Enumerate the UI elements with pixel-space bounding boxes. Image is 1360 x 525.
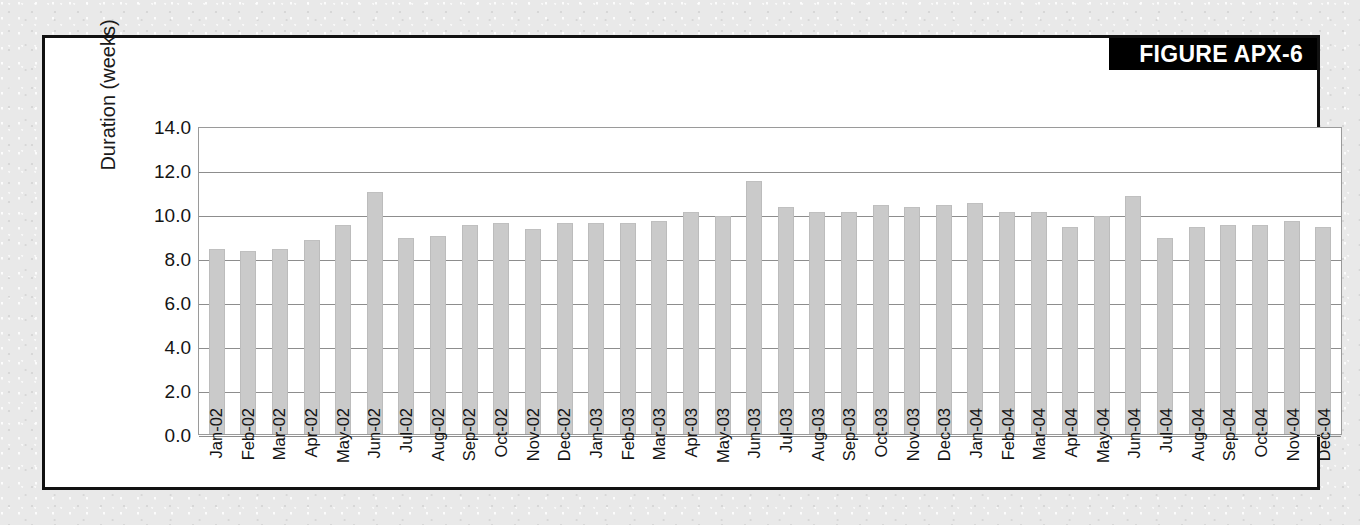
- bar: [304, 240, 320, 434]
- x-label-slot: Apr-04: [1055, 438, 1087, 522]
- x-axis-tick-label: Sep-02: [461, 408, 478, 488]
- bar: [1062, 227, 1078, 434]
- bar-slot: [517, 128, 549, 434]
- x-label-slot: Aug-03: [802, 438, 834, 522]
- bar: [651, 221, 667, 434]
- y-axis-tick-label: 14.0: [115, 118, 191, 137]
- x-axis-tick-label: Mar-02: [271, 408, 288, 488]
- x-label-slot: Oct-03: [865, 438, 897, 522]
- bar: [588, 223, 604, 434]
- bar: [746, 181, 762, 434]
- x-axis-tick-label: Mar-03: [651, 408, 668, 488]
- bar: [557, 223, 573, 434]
- bar-slot: [1181, 128, 1213, 434]
- x-label-slot: Oct-04: [1245, 438, 1277, 522]
- bar: [1189, 227, 1205, 434]
- bar: [209, 249, 225, 434]
- bar: [272, 249, 288, 434]
- x-axis-tick-label: Dec-02: [556, 408, 573, 488]
- bar: [430, 236, 446, 434]
- bar-slot: [802, 128, 834, 434]
- x-label-slot: Oct-02: [485, 438, 517, 522]
- bar-slot: [549, 128, 581, 434]
- bar-slot: [770, 128, 802, 434]
- x-label-slot: Aug-04: [1182, 438, 1214, 522]
- x-axis-tick-label: May-04: [1095, 408, 1112, 488]
- bar-slot: [1118, 128, 1150, 434]
- figure-number-badge: FIGURE APX-6: [1109, 38, 1317, 70]
- bar-slot: [454, 128, 486, 434]
- bar-slot: [675, 128, 707, 434]
- x-label-slot: Nov-02: [517, 438, 549, 522]
- x-axis-tick-label: Jul-04: [1158, 408, 1175, 488]
- x-label-slot: May-04: [1087, 438, 1119, 522]
- bar-slot: [1276, 128, 1308, 434]
- bar: [1284, 221, 1300, 434]
- x-label-slot: Feb-04: [992, 438, 1024, 522]
- bar: [1094, 216, 1110, 434]
- y-axis-tick-label: 0.0: [115, 426, 191, 445]
- x-axis-tick-label: Jun-02: [366, 408, 383, 488]
- x-label-slot: Jul-04: [1150, 438, 1182, 522]
- bar-slot: [644, 128, 676, 434]
- x-axis-tick-label: Apr-04: [1063, 408, 1080, 488]
- bar: [525, 229, 541, 434]
- bar: [967, 203, 983, 434]
- x-axis-tick-label: Jun-03: [746, 408, 763, 488]
- bar-slot: [960, 128, 992, 434]
- x-axis-tick-label: Feb-04: [1000, 408, 1017, 488]
- x-axis-tick-label: Nov-02: [525, 408, 542, 488]
- x-label-slot: Feb-02: [232, 438, 264, 522]
- x-axis-tick-label: Jan-03: [588, 408, 605, 488]
- x-label-slot: Jun-03: [738, 438, 770, 522]
- bar: [462, 225, 478, 434]
- x-axis-tick-label: Jun-04: [1126, 408, 1143, 488]
- y-axis-tick-labels: 14.012.010.08.06.04.02.00.0: [115, 116, 191, 446]
- x-axis-tick-label: Jul-03: [778, 408, 795, 488]
- bar-slot: [833, 128, 865, 434]
- bar: [715, 216, 731, 434]
- x-axis-tick-label: Sep-03: [841, 408, 858, 488]
- bar: [620, 223, 636, 434]
- bar-slot: [201, 128, 233, 434]
- bar: [335, 225, 351, 434]
- x-axis-tick-label: Jul-02: [398, 408, 415, 488]
- x-axis-tick-label: Oct-03: [873, 408, 890, 488]
- bar: [778, 207, 794, 434]
- x-axis-tick-label: Jan-04: [968, 408, 985, 488]
- y-axis-tick-label: 10.0: [115, 206, 191, 225]
- x-axis-tick-label: Feb-03: [620, 408, 637, 488]
- bar-slot: [327, 128, 359, 434]
- bar: [683, 212, 699, 434]
- x-label-slot: Sep-03: [833, 438, 865, 522]
- x-axis-tick-label: Apr-02: [303, 408, 320, 488]
- bar: [1315, 227, 1331, 434]
- bar-slot: [1244, 128, 1276, 434]
- bar-slot: [707, 128, 739, 434]
- y-axis-tick-label: 6.0: [115, 294, 191, 313]
- bar-slot: [738, 128, 770, 434]
- bar: [999, 212, 1015, 434]
- bar-slot: [422, 128, 454, 434]
- x-axis-tick-label: Feb-02: [240, 408, 257, 488]
- bar-slot: [296, 128, 328, 434]
- x-label-slot: Dec-02: [548, 438, 580, 522]
- figure-page: FIGURE APX-6 Duration (weeks) 14.012.010…: [0, 0, 1360, 525]
- x-label-slot: Sep-04: [1214, 438, 1246, 522]
- x-label-slot: Mar-04: [1023, 438, 1055, 522]
- x-axis-tick-label: Nov-03: [905, 408, 922, 488]
- x-axis-tick-label: May-02: [335, 408, 352, 488]
- bar: [1252, 225, 1268, 434]
- bar: [904, 207, 920, 434]
- bar-series: [199, 128, 1341, 434]
- bar-slot: [991, 128, 1023, 434]
- bar: [240, 251, 256, 434]
- bar-slot: [580, 128, 612, 434]
- bar: [841, 212, 857, 434]
- x-label-slot: Nov-04: [1277, 438, 1309, 522]
- bar-slot: [391, 128, 423, 434]
- x-label-slot: Dec-03: [928, 438, 960, 522]
- x-axis-tick-label: Dec-03: [936, 408, 953, 488]
- x-label-slot: Mar-03: [643, 438, 675, 522]
- bar: [493, 223, 509, 434]
